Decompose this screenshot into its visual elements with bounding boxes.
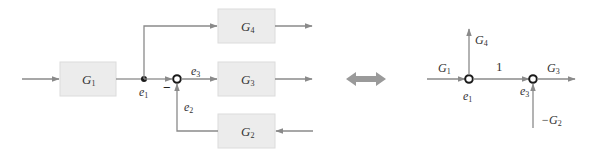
sfg-g3-label: G3	[547, 61, 560, 76]
sfg-e1-label: e1	[463, 89, 472, 104]
sfg-node-e3	[529, 75, 537, 83]
block-g3: G3	[218, 62, 275, 96]
double-arrow-icon	[346, 72, 386, 86]
signal-flow-graph: G1 e1 G4 1 e3 G3 −G2	[427, 29, 575, 128]
sfg-node-e1	[465, 75, 473, 83]
minus-sign: −	[163, 80, 171, 95]
block-g2: G2	[218, 114, 275, 148]
signal-e3-label: e3	[191, 64, 200, 79]
sfg-minus-g2-label: −G2	[541, 113, 562, 128]
signal-e1-label: e1	[139, 85, 148, 100]
sfg-e3-label: e3	[520, 84, 529, 99]
diagram-canvas: G1 − e3 e1 G4 G3 G2	[0, 0, 594, 159]
sfg-g4-label: G4	[475, 33, 488, 48]
block-g1: G1	[60, 62, 116, 96]
summing-junction	[173, 75, 181, 83]
sfg-g1-label: G1	[438, 61, 451, 76]
block-diagram: G1 − e3 e1 G4 G3 G2	[22, 9, 313, 148]
signal-e2-label: e2	[184, 100, 193, 115]
sfg-one-label: 1	[496, 59, 503, 74]
branch-to-g4	[144, 26, 217, 79]
block-g4: G4	[218, 9, 275, 43]
